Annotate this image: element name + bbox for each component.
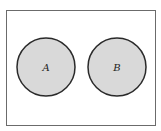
venn-diagram: A B (0, 0, 161, 131)
set-a-label: A (41, 62, 49, 73)
set-b-label: B (112, 62, 120, 73)
